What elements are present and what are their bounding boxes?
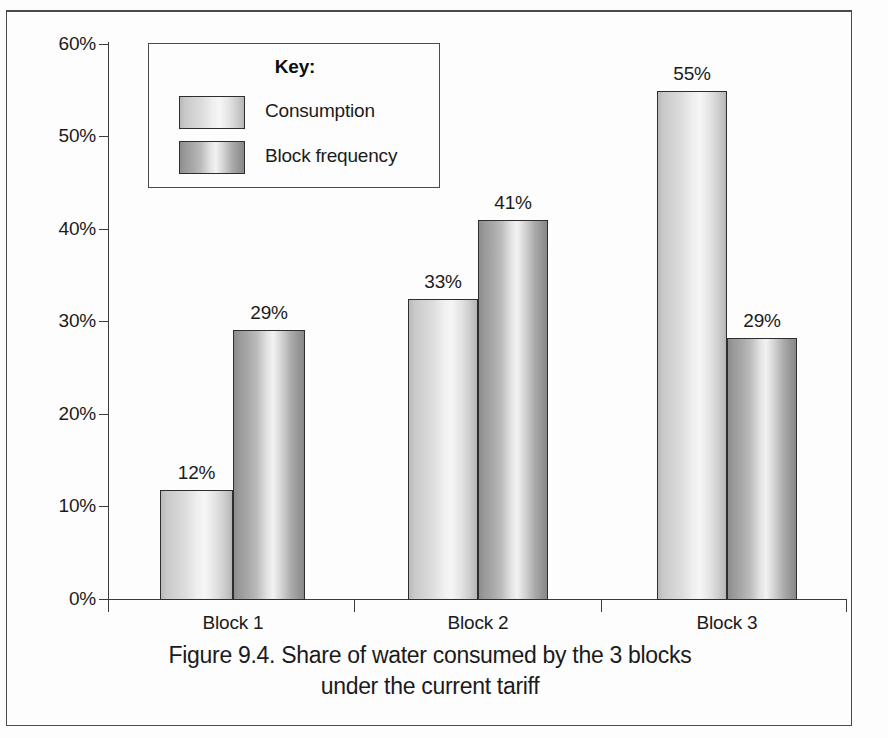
- bar-value-label: 41%: [478, 192, 548, 214]
- bar-block2-block-frequency[interactable]: [478, 220, 548, 600]
- bar-block3-block-frequency[interactable]: [727, 338, 797, 600]
- figure-page: 60% 50% 40% 30% 20% 10% 0%: [0, 0, 888, 738]
- bar-value-label: 29%: [233, 302, 305, 324]
- bar-value-label: 55%: [657, 63, 727, 85]
- bar-block1-consumption[interactable]: [160, 490, 233, 600]
- legend-box: Key: Consumption Block frequency: [148, 43, 440, 188]
- legend-title: Key:: [149, 56, 441, 78]
- x-category-label-block-2: Block 2: [398, 612, 558, 634]
- x-category-label-block-1: Block 1: [153, 612, 313, 634]
- caption-line-2: under the current tariff: [60, 671, 800, 702]
- y-tick-label: 20%: [32, 403, 96, 425]
- bar-value-label: 12%: [160, 462, 233, 484]
- legend-label: Consumption: [265, 100, 375, 122]
- caption-line-1: Figure 9.4. Share of water consumed by t…: [60, 640, 800, 671]
- bar-block1-block-frequency[interactable]: [233, 330, 305, 600]
- legend-label: Block frequency: [265, 145, 397, 167]
- x-category-label-block-3: Block 3: [647, 612, 807, 634]
- figure-caption: Figure 9.4. Share of water consumed by t…: [60, 640, 800, 702]
- x-tick-start: [108, 599, 109, 612]
- bar-value-label: 33%: [408, 271, 478, 293]
- x-tick-end: [846, 599, 847, 612]
- legend-swatch-block-frequency: [179, 141, 245, 174]
- x-tick-block1-block2: [354, 599, 355, 612]
- y-tick-label: 50%: [32, 125, 96, 147]
- legend-swatch-consumption: [179, 96, 245, 129]
- bar-block3-consumption[interactable]: [657, 91, 727, 600]
- x-tick-block2-block3: [601, 599, 602, 612]
- y-tick-label: 60%: [32, 33, 96, 55]
- y-tick-label: 0%: [32, 588, 96, 610]
- y-tick-label: 30%: [32, 310, 96, 332]
- y-tick-label: 40%: [32, 218, 96, 240]
- bar-value-label: 29%: [727, 310, 797, 332]
- y-tick-label: 10%: [32, 495, 96, 517]
- bar-block2-consumption[interactable]: [408, 299, 478, 600]
- bar-chart: 60% 50% 40% 30% 20% 10% 0%: [0, 0, 888, 738]
